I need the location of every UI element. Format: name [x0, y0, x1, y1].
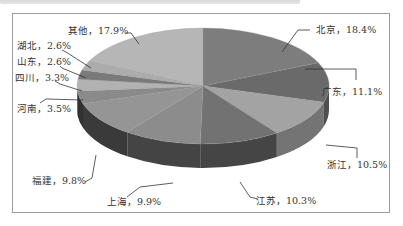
leader-line [85, 155, 96, 182]
data-label: 河南，3.5% [17, 103, 71, 114]
leader-line [326, 145, 357, 158]
data-label: 其他，17.9% [68, 25, 128, 36]
data-label: 山东，2.6% [17, 56, 71, 67]
data-label: 广东，11.1% [322, 86, 382, 97]
data-label: 湖北，2.6% [17, 40, 71, 51]
data-label: 福建，9.8% [32, 175, 86, 186]
data-label: 北京，18.4% [316, 24, 376, 35]
data-label: 四川，3.3% [15, 72, 69, 83]
leader-line [127, 183, 173, 197]
data-label: 江苏，10.3% [256, 195, 316, 206]
pie-chart: 北京，18.4%广东，11.1%浙江，10.5%江苏，10.3%上海，9.9%福… [0, 0, 403, 226]
data-label: 上海，9.9% [107, 196, 161, 207]
data-label: 浙江，10.5% [327, 159, 387, 170]
pie-top-faces [77, 28, 329, 144]
